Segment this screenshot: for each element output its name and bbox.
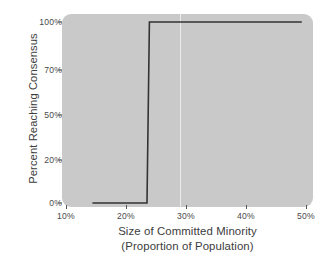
x-tick-label-50: 50%	[286, 211, 325, 221]
x-tick-text-50: 50%	[297, 211, 315, 221]
x-tick-mark-40	[246, 205, 247, 209]
y-tick-label-0: 0%	[6, 198, 62, 208]
x-tick-text-10: 10%	[57, 211, 75, 221]
x-axis-label: Size of Committed Minority (Proportion o…	[62, 224, 313, 254]
consensus-step-line	[62, 14, 313, 207]
x-tick-mark-30	[186, 205, 187, 209]
x-axis-label-line1: Size of Committed Minority	[118, 225, 257, 237]
x-tick-label-10: 10%	[46, 211, 86, 221]
x-tick-mark-50	[306, 205, 307, 209]
y-tick-label-100: 100%	[6, 17, 62, 27]
chart-figure: Percent Reaching Consensus 0% 20% 50% 70…	[0, 0, 325, 263]
plot-area	[62, 14, 313, 207]
x-axis-label-line2: (Proportion of Population)	[62, 239, 313, 254]
x-tick-label-30: 30%	[166, 211, 206, 221]
y-tick-label-70: 70%	[6, 65, 62, 75]
y-tick-label-20: 20%	[6, 155, 62, 165]
x-tick-text-20: 20%	[117, 211, 135, 221]
x-tick-text-30: 30%	[177, 211, 195, 221]
x-tick-mark-10	[66, 205, 67, 209]
x-tick-label-40: 40%	[226, 211, 266, 221]
x-tick-label-20: 20%	[106, 211, 146, 221]
y-axis-ticks: 0% 20% 50% 70% 100%	[0, 0, 62, 263]
x-tick-text-40: 40%	[237, 211, 255, 221]
x-tick-mark-20	[126, 205, 127, 209]
y-tick-label-50: 50%	[6, 110, 62, 120]
